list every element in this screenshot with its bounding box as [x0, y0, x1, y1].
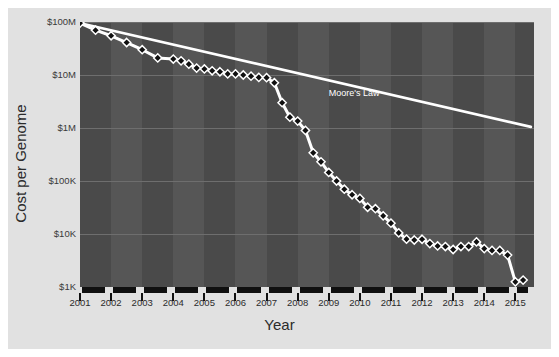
x-tick-label: 2012	[411, 298, 432, 308]
data-point-marker	[247, 72, 255, 80]
data-point-marker	[410, 236, 418, 244]
x-axis-segment	[486, 287, 509, 293]
chart-root: Cost per Genome $100M$10M$1M$100K$10K$1K…	[0, 0, 559, 357]
y-tick-label: $100M	[47, 17, 76, 27]
data-point-marker	[519, 276, 527, 284]
data-point-marker	[216, 68, 224, 76]
data-point-marker	[231, 70, 239, 78]
data-point-marker	[200, 65, 208, 73]
x-axis-title: Year	[0, 316, 559, 333]
x-tick-label: 2010	[349, 298, 370, 308]
x-axis-segment	[362, 287, 385, 293]
x-axis-segment	[424, 287, 447, 293]
x-tick-label: 2008	[287, 298, 308, 308]
data-point-marker	[208, 67, 216, 75]
y-tick-label: $1K	[59, 282, 76, 292]
x-tick-label: 2001	[69, 298, 90, 308]
plot-area: Moore's Law	[80, 22, 534, 287]
x-axis-segment	[455, 287, 478, 293]
x-tick-label: 2006	[225, 298, 246, 308]
x-tick-label: 2002	[101, 298, 122, 308]
x-axis-segment	[82, 287, 105, 293]
y-tick-label: $1M	[58, 123, 76, 133]
x-tick-label: 2003	[132, 298, 153, 308]
x-axis-segment	[237, 287, 260, 293]
x-axis-segment	[393, 287, 416, 293]
y-tick-label: $100K	[49, 176, 76, 186]
x-tick-label: 2004	[163, 298, 184, 308]
x-tick-label: 2015	[505, 298, 526, 308]
x-tick-label: 2013	[443, 298, 464, 308]
data-point-marker	[177, 57, 185, 65]
data-point-marker	[255, 73, 263, 81]
x-tick-label: 2011	[381, 298, 401, 308]
x-axis-segment	[517, 287, 528, 293]
x-axis-segment	[175, 287, 198, 293]
x-tick-label: 2014	[474, 298, 495, 308]
x-tick-label: 2005	[194, 298, 215, 308]
y-tick-label: $10M	[52, 70, 76, 80]
x-axis-segment	[144, 287, 167, 293]
moores-law-annotation: Moore's Law	[329, 88, 380, 98]
x-axis	[80, 287, 534, 293]
y-tick-label: $10K	[54, 229, 76, 239]
series-line	[80, 23, 523, 282]
series-line	[80, 23, 531, 127]
data-point-marker	[434, 242, 442, 250]
series-layer	[80, 22, 534, 287]
x-axis-segment	[206, 287, 229, 293]
x-tick-label: 2009	[318, 298, 339, 308]
x-axis-segment	[300, 287, 323, 293]
y-axis-tick-labels: $100M$10M$1M$100K$10K$1K	[0, 0, 76, 357]
data-point-marker	[80, 22, 84, 27]
x-axis-segment	[331, 287, 354, 293]
data-point-marker	[169, 55, 177, 63]
data-point-marker	[239, 71, 247, 79]
x-tick-label: 2007	[256, 298, 277, 308]
data-point-marker	[511, 278, 519, 286]
x-axis-segment	[113, 287, 136, 293]
x-axis-segment	[269, 287, 292, 293]
